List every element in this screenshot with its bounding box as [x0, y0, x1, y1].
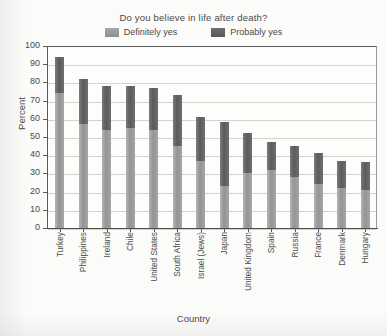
bar-segment-probably-yes	[149, 88, 158, 130]
x-axis-tick: United States	[142, 232, 166, 310]
y-axis-tick-mark	[43, 210, 47, 211]
chart-title: Do you believe in life after death?	[0, 12, 387, 23]
stacked-bar[interactable]	[337, 161, 346, 228]
bar-slot	[236, 46, 260, 228]
bar-segment-definitely-yes	[243, 173, 252, 228]
bar-slot	[166, 46, 190, 228]
y-axis-tick-label: 20	[6, 186, 40, 196]
legend-label: Probably yes	[230, 27, 282, 37]
bar-slot	[72, 46, 96, 228]
bar-slot	[142, 46, 166, 228]
bar-segment-definitely-yes	[173, 146, 182, 228]
stacked-bar[interactable]	[196, 117, 205, 228]
x-axis-tick: United Kingdom	[236, 232, 260, 310]
bar-segment-definitely-yes	[314, 184, 323, 228]
bar-segment-definitely-yes	[102, 130, 111, 228]
x-axis-tick: Denmark	[330, 232, 354, 310]
x-axis-tick-label: Russia	[290, 232, 300, 257]
bar-segment-probably-yes	[126, 86, 135, 128]
stacked-bar[interactable]	[102, 86, 111, 228]
x-axis-tick: Ireland	[95, 232, 119, 310]
bar-segment-definitely-yes	[196, 161, 205, 228]
y-axis-tick-label: 10	[6, 204, 40, 214]
stacked-bar[interactable]	[173, 95, 182, 228]
y-axis-tick-mark	[43, 119, 47, 120]
x-axis-tick-label: Israel (Jews)	[196, 232, 206, 279]
bar-segment-probably-yes	[361, 162, 370, 189]
bar-segment-definitely-yes	[361, 190, 370, 228]
y-axis-title: Percent	[16, 74, 27, 154]
legend-item-probably-yes: Probably yes	[211, 27, 282, 37]
bar-segment-definitely-yes	[220, 186, 229, 228]
legend-label: Definitely yes	[124, 27, 178, 37]
x-axis-tick: Spain	[260, 232, 284, 310]
x-axis-tick-label: France	[313, 232, 323, 258]
x-axis-tick: Russia	[283, 232, 307, 310]
y-axis-tick-mark	[43, 137, 47, 138]
x-axis-tick-label: South Africa	[172, 232, 182, 277]
x-axis-tick-label: Japan	[219, 232, 229, 255]
stacked-bar[interactable]	[149, 88, 158, 228]
y-axis-tick-mark	[43, 46, 47, 47]
bar-segment-probably-yes	[102, 86, 111, 130]
x-axis-tick: Philippines	[72, 232, 96, 310]
x-axis-tick: Japan	[213, 232, 237, 310]
x-axis-tick-label: Philippines	[78, 232, 88, 272]
x-axis-tick-label: United States	[149, 232, 159, 282]
stacked-bar[interactable]	[290, 146, 299, 228]
x-axis-tick: Chile	[119, 232, 143, 310]
bar-segment-probably-yes	[196, 117, 205, 161]
stacked-bar[interactable]	[267, 142, 276, 228]
x-axis-title: Country	[0, 313, 387, 324]
chart-legend: Definitely yes Probably yes	[0, 27, 387, 37]
stacked-bar[interactable]	[79, 79, 88, 228]
bar-slot	[330, 46, 354, 228]
x-axis-tick-label: Denmark	[337, 232, 347, 266]
bar-segment-probably-yes	[243, 133, 252, 173]
x-axis-tick-label: Turkey	[55, 232, 65, 257]
stacked-bar[interactable]	[55, 57, 64, 228]
x-axis-tick: France	[307, 232, 331, 310]
y-axis-tick-mark	[43, 64, 47, 65]
bar-series-group	[48, 46, 377, 228]
y-axis-tick-label: 0	[6, 222, 40, 232]
x-axis-tick: Israel (Jews)	[189, 232, 213, 310]
bar-segment-probably-yes	[290, 146, 299, 177]
x-axis-tick-label: Hungary	[360, 232, 370, 263]
x-axis-tick-label: United Kingdom	[243, 232, 253, 291]
bar-slot	[354, 46, 378, 228]
x-axis: TurkeyPhilippinesIrelandChileUnited Stat…	[48, 232, 377, 310]
bar-slot	[283, 46, 307, 228]
bar-segment-definitely-yes	[55, 93, 64, 228]
bar-segment-probably-yes	[314, 153, 323, 184]
y-axis-tick-mark	[43, 192, 47, 193]
bar-slot	[307, 46, 331, 228]
bar-segment-probably-yes	[173, 95, 182, 146]
y-axis-tick-label: 100	[6, 40, 40, 50]
bar-segment-definitely-yes	[290, 177, 299, 228]
chart-container: Do you believe in life after death? Defi…	[0, 0, 387, 336]
x-axis-tick: Turkey	[48, 232, 72, 310]
stacked-bar[interactable]	[243, 133, 252, 228]
stacked-bar[interactable]	[314, 153, 323, 228]
bar-segment-definitely-yes	[79, 124, 88, 228]
bar-segment-definitely-yes	[267, 170, 276, 228]
y-axis-tick-mark	[43, 101, 47, 102]
bar-slot	[48, 46, 72, 228]
y-axis-tick-mark	[43, 173, 47, 174]
bar-slot	[95, 46, 119, 228]
bar-segment-probably-yes	[337, 161, 346, 188]
stacked-bar[interactable]	[220, 122, 229, 228]
stacked-bar[interactable]	[361, 162, 370, 228]
stacked-bar[interactable]	[126, 86, 135, 228]
x-axis-line	[47, 228, 378, 229]
x-axis-tick: South Africa	[166, 232, 190, 310]
bar-slot	[260, 46, 284, 228]
bar-segment-probably-yes	[267, 142, 276, 169]
bar-slot	[213, 46, 237, 228]
y-axis-tick-label: 30	[6, 167, 40, 177]
bar-segment-probably-yes	[220, 122, 229, 186]
y-axis-tick-mark	[43, 155, 47, 156]
bar-segment-definitely-yes	[126, 128, 135, 228]
bar-segment-definitely-yes	[149, 130, 158, 228]
